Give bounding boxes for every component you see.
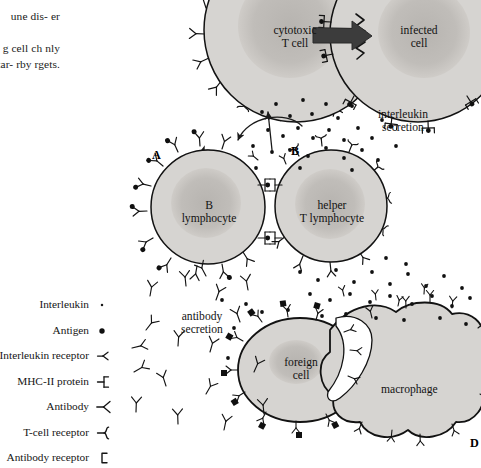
antibody-secretion-label: antibody secretion: [160, 310, 244, 336]
macrophage-label: macrophage: [381, 383, 438, 396]
helper-t-lymphocyte-label: helper T lymphocyte: [283, 199, 381, 225]
diagram-artwork: [0, 0, 481, 468]
panel-tag-d: D: [470, 436, 479, 451]
panel-tag-a: A: [152, 148, 161, 163]
infected-cell-label: infected cell: [378, 24, 460, 50]
foreign-cell-label: foreign cell: [266, 356, 336, 382]
interleukin-secretion-label: interleukin secretion: [355, 108, 451, 134]
immunity-diagram-figure: une dis- er n of tibod- g cell ch nly if…: [0, 0, 481, 468]
b-lymphocyte-label: B lymphocyte: [163, 199, 255, 225]
panel-tag-b: B: [291, 144, 299, 159]
cytotoxic-t-cell-label: cytotoxic T cell: [245, 24, 345, 50]
